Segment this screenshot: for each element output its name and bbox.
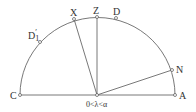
label-n: N [176, 64, 183, 75]
label-z: Z [93, 5, 99, 16]
label-d: D [113, 6, 120, 17]
label-a: A [179, 90, 187, 101]
semicircle-arc [20, 18, 175, 96]
semicircle-diagram: C A Z X D D1′ N 0<λ<α [0, 0, 196, 112]
label-c: C [10, 90, 17, 101]
point-c [19, 94, 22, 97]
line-to-n [97, 70, 172, 95]
label-x: X [70, 7, 78, 18]
point-n [171, 69, 174, 72]
point-center [96, 94, 99, 97]
center-condition-label: 0<λ<α [86, 100, 108, 109]
point-a [174, 94, 177, 97]
label-d1-prime: D1′ [28, 28, 39, 43]
line-to-x [74, 19, 97, 95]
